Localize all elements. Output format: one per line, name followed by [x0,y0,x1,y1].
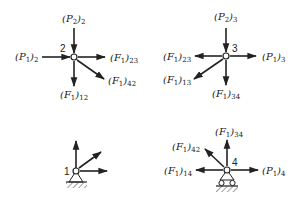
force-arrow-f1-42 [205,149,224,167]
force-label-p1-3: (P1)3 [262,51,285,64]
joint-label: 2 [60,43,66,54]
joint-node [224,167,230,173]
force-label-f1-34: (F1)34 [215,126,244,139]
force-label-f1-13: (F1)13 [163,74,191,87]
joint-node [73,168,79,174]
force-label-p2-2: (P2)2 [62,13,85,26]
ground-hatch [66,182,87,188]
free-body-diagrams: 2 (P2)2 (P1)2 (F1)23 (F1)42 (F1)12 3 (P2… [0,0,297,202]
joint-1: 1 [64,141,107,188]
force-label-p1-4: (P1)4 [262,165,286,178]
force-label-p2-3: (P2)3 [214,11,237,24]
joint-node [71,54,77,60]
force-arrow-f1-42 [77,60,104,79]
joint-label: 3 [232,43,238,54]
force-label-f1-23: (F1)23 [110,52,138,65]
joint-2: 2 (P2)2 (P1)2 (F1)23 (F1)42 (F1)12 [15,13,138,102]
joint-3: 3 (P2)3 (P1)3 (F1)23 (F1)13 (F1)34 [163,11,285,101]
force-label-f1-14: (F1)14 [164,165,193,178]
force-label-p1-2: (P1)2 [15,51,38,64]
force-label-f1-42: (F1)42 [108,75,136,88]
reaction-arrow-up-right [79,152,101,168]
joint-4: 4 (F1)34 (F1)42 (F1)14 (P1)4 [164,126,286,192]
force-label-f1-42: (F1)42 [172,141,200,154]
joint-label: 4 [232,157,238,168]
joint-label: 1 [64,166,70,177]
joint-node [223,53,229,59]
force-label-f1-34: (F1)34 [212,88,241,101]
force-label-f1-23: (F1)23 [163,51,191,64]
force-arrow-f1-13 [194,59,223,79]
ground-hatch [216,186,238,192]
force-label-f1-12: (F1)12 [60,89,88,102]
